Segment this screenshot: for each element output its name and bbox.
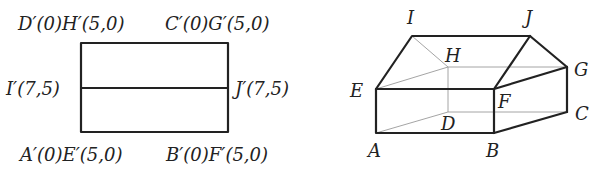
label-top-left: D′(0)H′(5,0)	[17, 13, 124, 34]
label-mid-right: J′(7,5)	[231, 78, 289, 99]
vertex-label-e: E	[349, 80, 363, 101]
right-solid: I J H G E F D C A B	[349, 7, 589, 161]
edge-jf	[494, 36, 530, 89]
left-projection: D′(0)H′(5,0) C′(0)G′(5,0) I′(7,5) J′(7,5…	[5, 13, 289, 165]
label-top-right: C′(0)G′(5,0)	[165, 13, 270, 34]
diagram-canvas: D′(0)H′(5,0) C′(0)G′(5,0) I′(7,5) J′(7,5…	[0, 0, 595, 194]
vertex-label-g: G	[574, 59, 588, 80]
vertex-label-h: H	[444, 45, 461, 66]
front-face	[376, 89, 494, 133]
label-mid-left: I′(7,5)	[5, 78, 60, 99]
vertex-label-j: J	[521, 7, 534, 28]
vertex-label-f: F	[497, 91, 512, 112]
edge-fg	[494, 67, 567, 89]
vertex-label-d: D	[440, 113, 456, 134]
vertex-label-i: I	[406, 7, 415, 28]
vertex-label-b: B	[485, 140, 499, 161]
hidden-edge-ad	[376, 112, 448, 133]
hidden-edge-eh	[376, 67, 448, 89]
label-bottom-left: A′(0)E′(5,0)	[18, 144, 122, 165]
vertex-label-a: A	[366, 140, 381, 161]
hidden-edge-ih	[412, 36, 448, 67]
label-bottom-right: B′(0)F′(5,0)	[165, 144, 268, 165]
vertex-label-c: C	[575, 103, 589, 124]
roof-outline	[376, 36, 567, 89]
edge-bc	[494, 112, 567, 133]
